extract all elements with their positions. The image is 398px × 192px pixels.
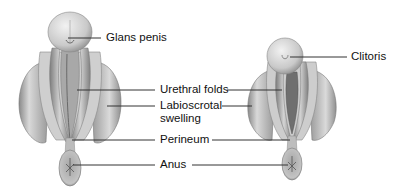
label-labioscrotal: Labioscrotal xyxy=(160,99,222,112)
illustration xyxy=(0,0,398,192)
label-clitoris: Clitoris xyxy=(351,50,386,63)
label-urethral-folds: Urethral folds xyxy=(160,83,228,96)
label-perineum: Perineum xyxy=(160,133,209,146)
label-glans-penis: Glans penis xyxy=(106,31,167,44)
label-anus: Anus xyxy=(160,158,186,171)
label-swelling: swelling xyxy=(160,112,201,125)
female-illustration xyxy=(248,38,336,180)
genitalia-diagram: Glans penis Clitoris Urethral folds Labi… xyxy=(0,0,398,192)
